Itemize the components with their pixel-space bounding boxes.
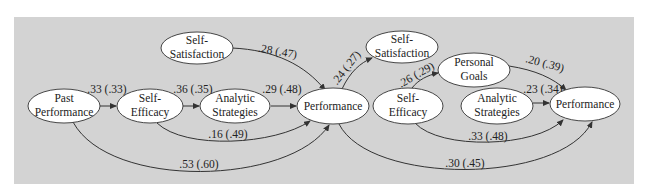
node-performance-2: Performance — [550, 87, 620, 121]
node-past-performance: Past Performance — [28, 89, 100, 123]
svg-text:Personal: Personal — [454, 56, 494, 68]
node-performance: Performance — [297, 88, 369, 124]
svg-text:Efficacy: Efficacy — [131, 106, 170, 119]
node-self-efficacy-2: Self- Efficacy — [373, 88, 443, 124]
path-diagram: .33 (.33) .36 (.35) .29 (.48) .28 (.47) … — [0, 0, 648, 191]
edge-label: .33 (.33) — [87, 83, 126, 96]
edge-label: .28 (.47) — [257, 42, 298, 62]
node-analytic-strategies: Analytic Strategies — [200, 89, 270, 123]
edge-label: .53 (.60) — [179, 158, 218, 171]
svg-text:Analytic: Analytic — [215, 92, 255, 105]
edge-label: .29 (.48) — [262, 83, 301, 96]
svg-text:Strategies: Strategies — [212, 106, 258, 119]
svg-text:Self-: Self- — [391, 33, 414, 45]
node-personal-goals: Personal Goals — [438, 53, 510, 87]
svg-text:Self-: Self- — [397, 92, 420, 104]
edge-label: .33 (.48) — [468, 130, 507, 143]
node-self-efficacy: Self- Efficacy — [117, 89, 183, 123]
svg-text:Self-: Self- — [139, 92, 162, 104]
svg-text:Performance: Performance — [304, 100, 363, 112]
node-self-satisfaction: Self- Satisfaction — [161, 32, 233, 64]
svg-text:Satisfaction: Satisfaction — [375, 47, 430, 59]
svg-text:Performance: Performance — [35, 106, 94, 118]
edge-label: .16 (.49) — [208, 128, 247, 141]
svg-text:Efficacy: Efficacy — [389, 106, 428, 119]
svg-text:Performance: Performance — [556, 98, 615, 110]
svg-text:Strategies: Strategies — [474, 106, 520, 119]
node-self-satisfaction-2: Self- Satisfaction — [366, 31, 438, 63]
svg-text:Goals: Goals — [461, 70, 488, 82]
edge-label: .30 (.45) — [445, 157, 484, 170]
svg-text:Past: Past — [54, 92, 74, 104]
edge-label: .20 (.39) — [524, 52, 565, 75]
svg-text:Analytic: Analytic — [477, 92, 517, 105]
svg-text:Satisfaction: Satisfaction — [170, 48, 225, 60]
edge-label: .36 (.35) — [173, 83, 212, 96]
node-analytic-strategies-2: Analytic Strategies — [461, 88, 533, 124]
svg-text:Self-: Self- — [186, 34, 209, 46]
